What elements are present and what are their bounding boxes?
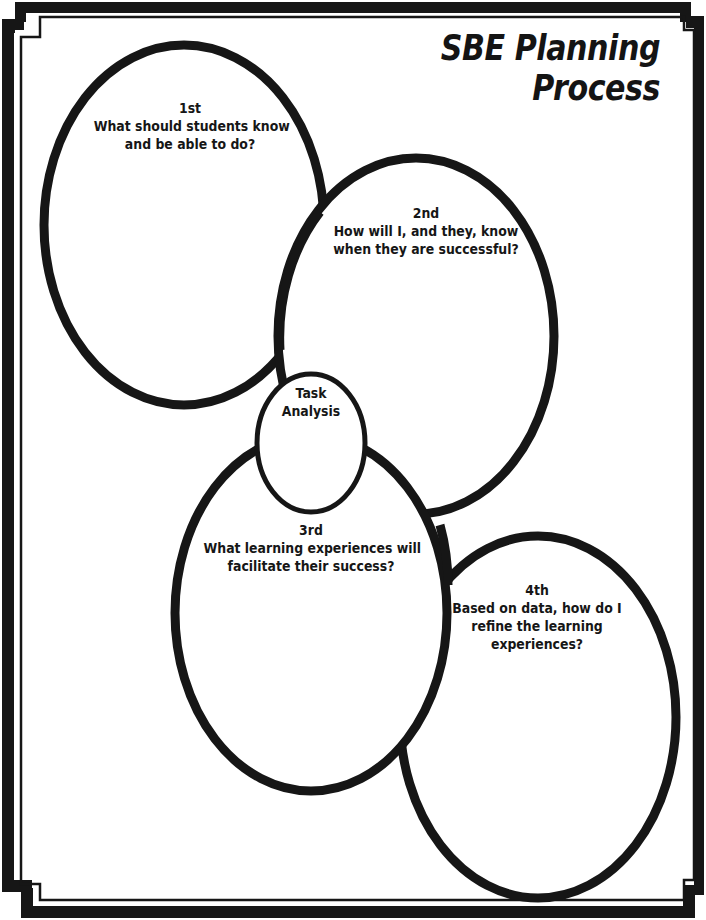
page-title: SBE Planning Process: [441, 28, 660, 108]
title-line-2: Process: [441, 68, 660, 108]
step-3-order: 3rd: [204, 521, 419, 539]
step-3-label: 3rd What learning experiences will facil…: [204, 521, 419, 575]
step-4-line-1: Based on data, how do I: [447, 599, 628, 617]
step-4-line-2: refine the learning: [447, 617, 628, 635]
step-2-label: 2nd How will I, and they, know when they…: [323, 204, 529, 258]
step-3-line-1: What learning experiences will: [204, 539, 419, 557]
step-2-line-2: when they are successful?: [323, 240, 529, 258]
task-analysis-line-1: Task: [265, 384, 356, 402]
step-1-line-1: What should students know: [94, 117, 287, 135]
task-analysis-line-2: Analysis: [265, 402, 356, 420]
step-1-line-2: and be able to do?: [94, 135, 287, 153]
step-1-label: 1st What should students know and be abl…: [94, 99, 287, 153]
step-4-line-3: experiences?: [447, 635, 628, 653]
step-2-line-1: How will I, and they, know: [323, 222, 529, 240]
task-analysis-label: Task Analysis: [265, 384, 356, 420]
title-line-1: SBE Planning: [441, 28, 660, 68]
worksheet-page: SBE Planning Process 1st What should stu…: [0, 0, 706, 920]
step-4-label: 4th Based on data, how do I refine the l…: [447, 581, 628, 653]
step-4-order: 4th: [447, 581, 628, 599]
step-1-order: 1st: [94, 99, 287, 117]
step-3-line-2: facilitate their success?: [204, 557, 419, 575]
step-2-order: 2nd: [323, 204, 529, 222]
